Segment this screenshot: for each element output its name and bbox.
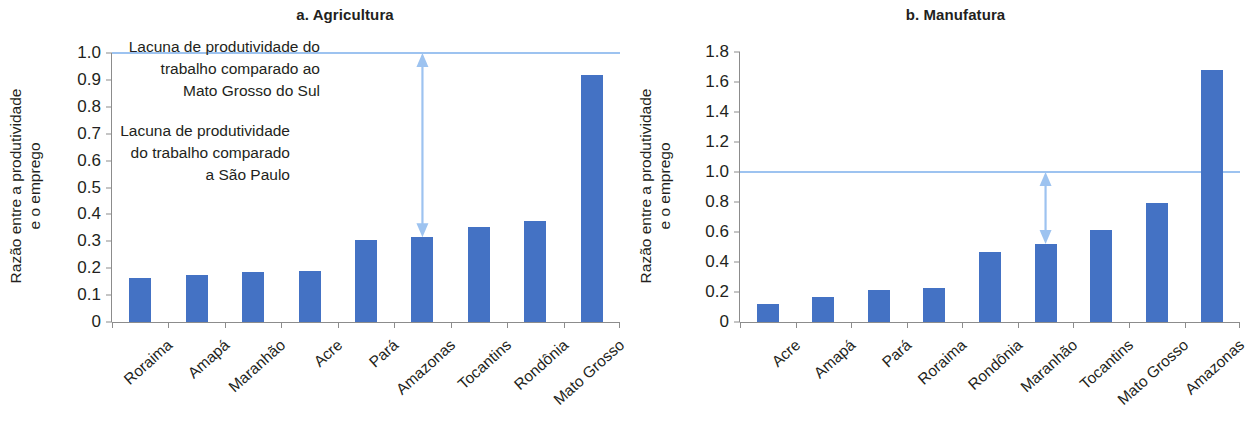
y-tick-label: 0.4: [77, 204, 112, 224]
x-tick-mark: [338, 322, 339, 328]
y-tick-label: 1.6: [705, 72, 740, 92]
x-tick-mark: [1239, 322, 1240, 328]
y-tick-label: 0.2: [705, 282, 740, 302]
x-tick-label: Amazonas: [392, 336, 458, 398]
panel-b-y-axis-title-line2: e o emprego: [656, 142, 673, 229]
x-tick-label: Rondônia: [964, 336, 1025, 394]
x-tick-mark: [112, 322, 113, 328]
y-tick-label: 0: [92, 312, 112, 332]
y-tick-label: 1.2: [705, 132, 740, 152]
x-tick-label: Maranhão: [225, 336, 289, 396]
x-tick-mark: [1073, 322, 1074, 328]
y-tick-label: 0: [720, 312, 740, 332]
x-tick-mark: [619, 322, 620, 328]
panel-b-annotation-line3: a São Paulo: [44, 164, 290, 186]
x-tick-label: Pará: [878, 336, 914, 371]
x-tick-label: Acre: [310, 336, 346, 371]
x-tick-mark: [851, 322, 852, 328]
panel-a-y-axis-title-line2: e o emprego: [26, 142, 43, 229]
panel-a-annotation: Lacuna de produtividade do trabalho comp…: [30, 36, 320, 102]
x-tick-mark: [740, 322, 741, 328]
x-tick-mark: [394, 322, 395, 328]
panel-b-annotation-line1: Lacuna de produtividade: [44, 120, 290, 142]
panel-b-annotation: Lacuna de produtividade do trabalho comp…: [44, 120, 290, 186]
x-tick-label: Amazonas: [1182, 336, 1248, 398]
figure-productivity-gap: a. Agricultura Razão entre a produtivida…: [0, 0, 1251, 435]
x-tick-mark: [507, 322, 508, 328]
y-tick-label: 1.0: [705, 162, 740, 182]
y-tick-label: 0.2: [77, 258, 112, 278]
panel-a-title: a. Agricultura: [0, 6, 630, 23]
x-tick-mark: [564, 322, 565, 328]
x-tick-label: Amapá: [184, 336, 233, 382]
x-tick-mark: [1129, 322, 1130, 328]
x-tick-label: Pará: [366, 336, 402, 371]
x-tick-label: Roraima: [121, 336, 177, 389]
panel-b-y-axis-title: Razão entre a produtividade e o emprego: [636, 50, 674, 322]
x-tick-mark: [168, 322, 169, 328]
y-tick-label: 0.8: [705, 192, 740, 212]
x-tick-mark: [281, 322, 282, 328]
x-tick-mark: [225, 322, 226, 328]
x-tick-mark: [451, 322, 452, 328]
panel-a-x-labels: RoraimaAmapáMaranhãoAcreParáAmazonasToca…: [112, 322, 620, 432]
x-tick-label: Roraima: [915, 336, 971, 389]
x-tick-mark: [1185, 322, 1186, 328]
panel-a-annotation-line2: trabalho comparado ao: [30, 58, 320, 80]
y-tick-label: 0.3: [77, 231, 112, 251]
panel-b-plot-area: 00.20.40.60.81.01.21.41.61.8 AcreAmapáPa…: [740, 52, 1240, 322]
y-tick-label: 1.8: [705, 42, 740, 62]
x-tick-label: Maranhão: [1017, 336, 1081, 396]
x-tick-mark: [962, 322, 963, 328]
y-tick-label: 0.6: [705, 222, 740, 242]
x-tick-label: Amapá: [811, 336, 860, 382]
x-tick-label: Acre: [768, 336, 804, 371]
panel-b-y-axis-title-line1: Razão entre a produtividade: [637, 89, 654, 284]
panel-b-title: b. Manufatura: [630, 6, 1251, 23]
panel-b-gap-arrow: [740, 52, 1240, 322]
chart-panel-agricultura: a. Agricultura Razão entre a produtivida…: [0, 0, 630, 435]
y-tick-label: 0.4: [705, 252, 740, 272]
panel-b-x-labels: AcreAmapáParáRoraimaRondôniaMaranhãoToca…: [740, 322, 1240, 432]
panel-b-annotation-line2: do trabalho comparado: [44, 142, 290, 164]
panel-a-y-axis-title-line1: Razão entre a produtividade: [7, 89, 24, 284]
y-tick-label: 0.1: [77, 285, 112, 305]
x-tick-label: Tocantins: [454, 336, 515, 393]
x-tick-mark: [907, 322, 908, 328]
panel-a-annotation-line1: Lacuna de produtividade do: [30, 36, 320, 58]
x-tick-mark: [1018, 322, 1019, 328]
x-tick-mark: [796, 322, 797, 328]
panel-a-annotation-line3: Mato Grosso do Sul: [30, 80, 320, 102]
y-tick-label: 1.4: [705, 102, 740, 122]
